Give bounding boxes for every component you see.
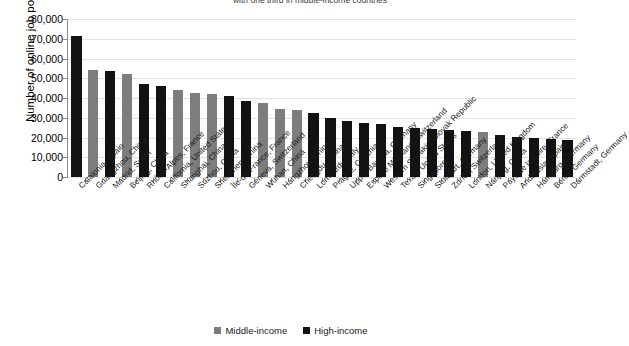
gridline	[68, 78, 576, 79]
gridline	[68, 19, 576, 20]
legend-item: Middle-income	[214, 325, 287, 336]
gridline	[68, 39, 576, 40]
legend: Middle-incomeHigh-income	[0, 325, 582, 336]
chart-title: with one third in middle-income countrie…	[120, 0, 500, 4]
legend-swatch-icon	[303, 327, 310, 334]
y-axis-tick-label: 60,000	[15, 54, 63, 64]
legend-swatch-icon	[214, 327, 221, 334]
y-axis-tick-label: 50,000	[15, 73, 63, 83]
legend-label: Middle-income	[225, 325, 287, 336]
y-axis-tick-label: 40,000	[15, 93, 63, 103]
y-axis-tick-label: 30,000	[15, 113, 63, 123]
bar	[88, 70, 98, 177]
y-axis-tick-label: 20,000	[15, 133, 63, 143]
legend-item: High-income	[303, 325, 367, 336]
y-axis-tick-label: 80,000	[15, 14, 63, 24]
gridline	[68, 59, 576, 60]
y-axis-tick-label: 10,000	[15, 152, 63, 162]
y-axis-tick-label: 70,000	[15, 34, 63, 44]
y-axis-tick-label: 0	[15, 172, 63, 182]
bar	[71, 36, 81, 177]
legend-label: High-income	[314, 325, 367, 336]
